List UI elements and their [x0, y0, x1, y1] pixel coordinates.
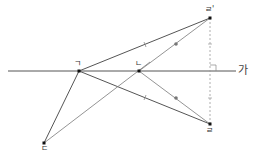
mark-nieun-rieul — [174, 96, 178, 100]
label-rieul-prime: ㄹ' — [205, 6, 214, 14]
label-digeut: ㄷ — [41, 145, 48, 153]
segment-giyeok-digeut — [44, 71, 79, 143]
label-line-ga: 가 — [238, 65, 248, 76]
segment-digeut-nieun — [44, 62, 150, 143]
mark-nieun-rieul-prime — [174, 42, 178, 46]
point-giyeok — [78, 70, 81, 73]
label-rieul: ㄹ — [206, 127, 213, 135]
point-rieul-prime — [209, 17, 212, 20]
segment-giyeok-rieul — [79, 71, 210, 124]
segment-giyeok-rieul-prime — [79, 18, 210, 71]
diagram-canvas — [0, 0, 255, 154]
label-nieun: ㄴ — [135, 60, 142, 68]
label-giyeok: ㄱ — [74, 60, 81, 68]
geometry-diagram: ㄱ ㄴ ㄷ ㄹ ㄹ' 가 — [0, 0, 255, 154]
right-angle-mark — [210, 65, 216, 71]
point-nieun — [138, 70, 141, 73]
